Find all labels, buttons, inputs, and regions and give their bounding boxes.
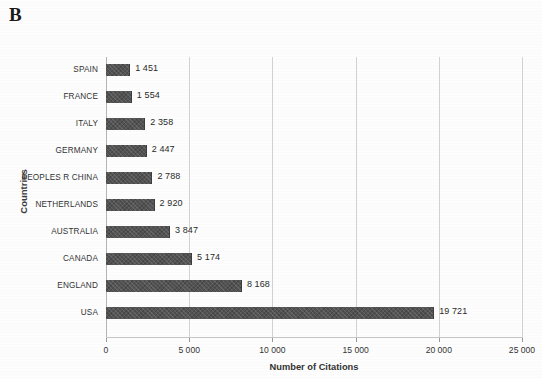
y-axis-title: Countries	[18, 147, 29, 237]
category-label: AUSTRALIA	[0, 227, 98, 236]
tick-mark-25000	[522, 338, 523, 342]
category-label: CANADA	[0, 254, 98, 263]
bar	[106, 199, 155, 211]
bar	[106, 253, 192, 265]
bar-row: 1 451	[106, 57, 522, 84]
tick-mark-0	[106, 338, 107, 342]
category-label: USA	[0, 308, 98, 317]
bar-row: 2 788	[106, 165, 522, 192]
x-tick-label: 25 000	[509, 345, 535, 355]
bar-row: 2 920	[106, 192, 522, 219]
x-tick-label: 10 000	[259, 345, 285, 355]
tick-mark-20000	[439, 338, 440, 342]
bar	[106, 64, 130, 76]
x-tick-label: 5 000	[178, 345, 200, 355]
panel-letter: B	[9, 4, 22, 26]
bar	[106, 172, 152, 184]
bar-value-label: 5 174	[197, 252, 220, 262]
bar-value-label: 2 920	[160, 198, 183, 208]
category-label: NETHERLANDS	[0, 200, 98, 209]
category-label: PEOPLES R CHINA	[0, 173, 98, 182]
bar	[106, 118, 145, 130]
bar-row: 19 721	[106, 300, 522, 327]
bar-row: 2 358	[106, 111, 522, 138]
bar-row: 2 447	[106, 138, 522, 165]
x-tick-label: 0	[104, 345, 109, 355]
category-label: ENGLAND	[0, 281, 98, 290]
x-axis-line	[106, 337, 522, 338]
category-label: FRANCE	[0, 92, 98, 101]
category-label: SPAIN	[0, 65, 98, 74]
bar	[106, 226, 170, 238]
plot-area: 1 4511 5542 3582 4472 7882 9203 8475 174…	[106, 57, 522, 338]
bar-value-label: 3 847	[175, 225, 198, 235]
bar	[106, 91, 132, 103]
gridline-25000	[522, 57, 523, 338]
bar-row: 3 847	[106, 219, 522, 246]
bar-value-label: 19 721	[439, 306, 467, 316]
bar-value-label: 8 168	[247, 279, 270, 289]
tick-mark-10000	[272, 338, 273, 342]
category-label: ITALY	[0, 119, 98, 128]
figure-panel-b: B Countries 1 4511 5542 3582 4472 7882 9…	[0, 0, 542, 378]
bar-row: 1 554	[106, 84, 522, 111]
bar-row: 8 168	[106, 273, 522, 300]
bar	[106, 145, 147, 157]
bar	[106, 280, 242, 292]
x-tick-label: 20 000	[426, 345, 452, 355]
bar-value-label: 2 358	[150, 117, 173, 127]
tick-mark-15000	[356, 338, 357, 342]
bar	[106, 307, 434, 319]
bar-value-label: 2 447	[152, 144, 175, 154]
x-axis-title: Number of Citations	[106, 362, 522, 372]
bar-value-label: 1 554	[137, 90, 160, 100]
x-tick-label: 15 000	[342, 345, 368, 355]
bar-row: 5 174	[106, 246, 522, 273]
tick-mark-5000	[189, 338, 190, 342]
bar-value-label: 1 451	[135, 63, 158, 73]
category-label: GERMANY	[0, 146, 98, 155]
bar-value-label: 2 788	[157, 171, 180, 181]
